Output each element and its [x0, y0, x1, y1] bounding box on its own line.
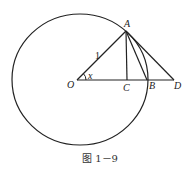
geometry-diagram: A O C B D 1 x [0, 0, 192, 169]
figure-canvas: A O C B D 1 x 图 1－9 [0, 0, 192, 169]
radius-label: 1 [95, 50, 100, 61]
label-D: D [173, 80, 182, 91]
segment-OA [77, 31, 126, 80]
segment-AC [126, 31, 127, 80]
label-C: C [123, 82, 130, 93]
segment-AD [126, 31, 174, 80]
label-O: O [67, 79, 74, 90]
angle-arc [83, 74, 86, 80]
label-B: B [149, 80, 155, 91]
figure-caption: 图 1－9 [0, 150, 192, 165]
angle-label: x [87, 70, 93, 81]
label-A: A [123, 18, 131, 29]
